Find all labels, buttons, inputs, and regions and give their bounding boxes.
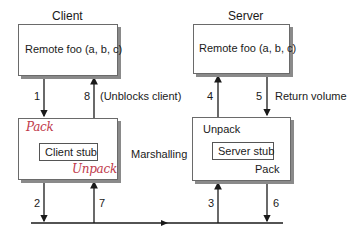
step-5-note: Return volume (275, 90, 347, 102)
step-7-label: 7 (99, 197, 105, 209)
client-unpack-annotation: Unpack (72, 163, 117, 175)
server-procedure-box: Remote foo (a, b, c) (193, 24, 290, 74)
network-direction-arrowhead (161, 220, 168, 226)
server-unpack-annotation: Unpack (203, 123, 240, 135)
client-procedure-box: Remote foo (a, b, c) (18, 24, 118, 76)
step-4-label: 4 (207, 90, 213, 102)
step-8-label: 8 (84, 90, 90, 102)
client-stub-container: Pack Client stub Unpack (18, 118, 118, 180)
step-5-label: 5 (256, 90, 262, 102)
client-procedure-label: Remote foo (a, b, c) (25, 43, 122, 55)
server-stub-container: Unpack Server stub Pack (192, 117, 291, 181)
server-stub-box: Server stub (212, 142, 274, 160)
step-6-label: 6 (273, 197, 279, 209)
server-procedure-label: Remote foo (a, b, c) (199, 42, 296, 54)
step-1-label: 1 (34, 90, 40, 102)
step-8-note: (Unblocks client) (100, 90, 181, 102)
server-title: Server (228, 10, 263, 22)
client-pack-annotation: Pack (26, 121, 53, 133)
step-2-label: 2 (34, 197, 40, 209)
server-pack-annotation: Pack (255, 163, 279, 175)
client-stub-box: Client stub (39, 143, 98, 161)
client-title: Client (52, 10, 83, 22)
marshalling-label: Marshalling (131, 148, 187, 160)
step-3-label: 3 (208, 197, 214, 209)
